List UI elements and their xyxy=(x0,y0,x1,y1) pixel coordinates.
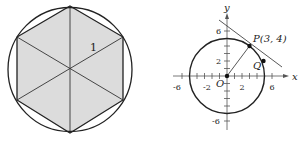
side-length-label: 1 xyxy=(90,41,97,54)
point-origin xyxy=(225,74,229,78)
y-axis-label: y xyxy=(223,2,230,13)
coordinate-figure: y x -6 -2 2 6 6 2 -6 O P(3, 4) Q xyxy=(173,2,298,130)
y-axis-arrow-icon xyxy=(225,13,229,19)
hexagon-figure: 1 xyxy=(8,6,132,133)
figure-canvas: 1 xyxy=(0,0,302,143)
point-q xyxy=(261,59,265,63)
origin-label: O xyxy=(216,78,224,89)
radius-op xyxy=(227,46,250,76)
y-tick-label-2: 2 xyxy=(216,57,221,66)
point-p-label: P(3, 4) xyxy=(252,33,287,44)
x-tick-label-neg6: -6 xyxy=(173,83,181,92)
point-p xyxy=(247,44,251,48)
x-axis-arrow-icon xyxy=(283,74,289,78)
y-tick-label-6: 6 xyxy=(216,27,221,36)
y-tick-label-neg6: -6 xyxy=(212,117,220,126)
point-q-label: Q xyxy=(253,60,261,71)
x-axis-label: x xyxy=(292,71,298,82)
x-tick-label-neg2: -2 xyxy=(203,83,211,92)
x-tick-label-2: 2 xyxy=(240,83,245,92)
x-tick-label-6: 6 xyxy=(270,83,275,92)
